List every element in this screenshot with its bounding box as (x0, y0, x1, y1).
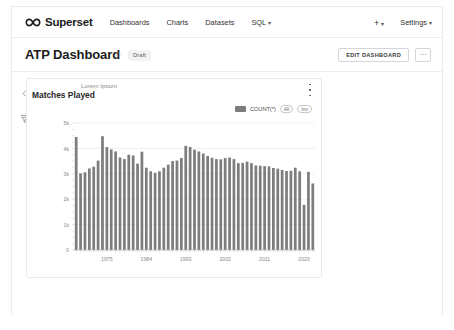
chart-legend: COUNT(*) All Inv (235, 105, 312, 113)
legend-select-all-button[interactable]: All (280, 105, 294, 113)
nav-link-charts[interactable]: Charts (166, 18, 188, 27)
chart-card-title[interactable]: Matches Played (32, 90, 95, 100)
legend-swatch (235, 106, 246, 112)
chart-card: Lorem Ipsum Matches Played COUNT(*) All … (26, 78, 322, 278)
svg-text:3k: 3k (64, 171, 70, 177)
bar-chart-plot[interactable]: 01k2k3k4k5k197519841993200220112020 (27, 117, 323, 279)
nav-link-dashboards[interactable]: Dashboards (110, 18, 150, 27)
svg-text:4k: 4k (64, 146, 70, 152)
svg-text:1975: 1975 (101, 256, 113, 262)
svg-text:2020: 2020 (298, 256, 310, 262)
brand-name: Superset (45, 16, 93, 28)
more-options-icon[interactable] (306, 84, 314, 96)
brand[interactable]: Superset (25, 13, 93, 31)
bar-chart-svg: 01k2k3k4k5k197519841993200220112020 (27, 117, 323, 279)
chevron-down-icon: ▾ (429, 20, 432, 26)
dashboard-header: ATP Dashboard ☆ Draft EDIT DASHBOARD ··· (12, 38, 442, 72)
svg-text:2011: 2011 (259, 256, 270, 262)
svg-text:5k: 5k (64, 120, 70, 126)
chart-card-subtitle: Lorem Ipsum (81, 82, 117, 89)
nav-links: Dashboards Charts Datasets SQL▾ (110, 18, 272, 27)
dashboard-canvas: Lorem Ipsum Matches Played COUNT(*) All … (12, 72, 442, 315)
settings-menu-button[interactable]: Settings▾ (400, 18, 432, 27)
nav-right-group: +▾ Settings▾ (374, 7, 432, 38)
status-badge: Draft (128, 50, 151, 61)
dashboard-more-button[interactable]: ··· (415, 48, 431, 62)
svg-text:0: 0 (66, 247, 69, 253)
svg-text:1993: 1993 (180, 256, 192, 262)
nav-link-sql-label: SQL (251, 18, 266, 27)
svg-text:2k: 2k (64, 196, 70, 202)
nav-link-datasets[interactable]: Datasets (205, 18, 234, 27)
svg-text:1984: 1984 (141, 256, 153, 262)
nav-link-sql[interactable]: SQL▾ (251, 18, 271, 27)
favorite-star-icon[interactable]: ☆ (114, 51, 123, 60)
legend-label: COUNT(*) (250, 106, 276, 112)
edit-dashboard-button[interactable]: EDIT DASHBOARD (338, 48, 409, 62)
chart-card-header: Lorem Ipsum Matches Played (27, 79, 321, 105)
new-menu-button[interactable]: +▾ (374, 18, 384, 28)
legend-invert-button[interactable]: Inv (297, 105, 312, 113)
svg-text:1k: 1k (64, 222, 70, 228)
page-title: ATP Dashboard (25, 47, 120, 62)
top-navbar: Superset Dashboards Charts Datasets SQL▾… (12, 7, 442, 38)
settings-label: Settings (400, 18, 427, 27)
page-frame: Superset Dashboards Charts Datasets SQL▾… (11, 6, 443, 315)
svg-text:2002: 2002 (219, 256, 231, 262)
chevron-down-icon: ▾ (268, 20, 271, 26)
app-root: Superset Dashboards Charts Datasets SQL▾… (0, 0, 454, 330)
chevron-down-icon: ▾ (381, 21, 384, 27)
plus-icon: + (374, 18, 379, 28)
superset-infinity-logo-icon (25, 13, 41, 31)
